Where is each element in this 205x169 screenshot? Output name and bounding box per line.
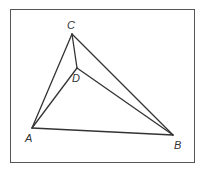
label-a: A xyxy=(24,132,32,144)
label-d: D xyxy=(72,72,80,84)
segment-ab xyxy=(32,128,173,135)
segment-ca xyxy=(32,34,72,128)
segment-ad xyxy=(32,68,77,128)
segment-bd xyxy=(77,68,173,135)
segment-bc xyxy=(72,34,173,135)
label-c: C xyxy=(67,19,75,31)
geometry-diagram: A B C D xyxy=(0,0,205,169)
segments xyxy=(32,34,173,135)
label-b: B xyxy=(174,139,181,151)
